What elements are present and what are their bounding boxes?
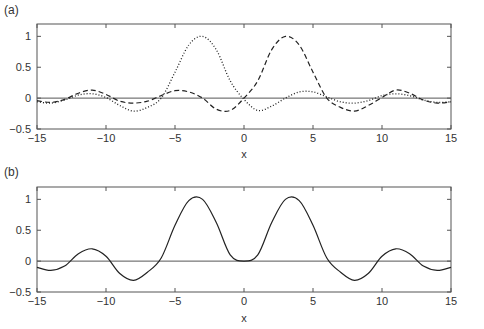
x-tick-label: 0 (241, 295, 247, 307)
x-tick-label: 0 (241, 132, 247, 144)
x-tick-label: −10 (97, 132, 116, 144)
x-tick-label: 10 (376, 132, 388, 144)
y-tick-label: 0.5 (16, 61, 31, 73)
x-tick-label: 5 (310, 295, 316, 307)
x-tick-label: 10 (376, 295, 388, 307)
x-tick-label: 15 (445, 295, 457, 307)
y-tick-label: 0 (25, 255, 31, 267)
y-tick-label: 0.5 (16, 224, 31, 236)
y-tick-label: 1 (25, 193, 31, 205)
figure: (a) −15−10−5051015−0.500.51 x (b) −15−10… (0, 0, 484, 329)
x-tick-label: −5 (169, 295, 182, 307)
panel-a-axes: −15−10−5051015−0.500.51 (9, 24, 457, 144)
y-tick-label: 0 (25, 92, 31, 104)
panel-a-xlabel: x (241, 148, 247, 160)
x-tick-label: −10 (97, 295, 116, 307)
x-tick-label: −5 (169, 132, 182, 144)
panel-b-axes: −15−10−5051015−0.500.51 (9, 187, 457, 307)
panel-b-label: (b) (4, 165, 19, 179)
y-tick-label: −0.5 (9, 286, 31, 298)
series-dotted (37, 36, 451, 111)
panel-a: (a) −15−10−5051015−0.500.51 x (4, 3, 457, 160)
y-tick-label: 1 (25, 30, 31, 42)
series-solid (37, 197, 451, 280)
panel-b-xlabel: x (241, 312, 247, 324)
panel-a-label: (a) (4, 3, 19, 17)
x-tick-label: 15 (445, 132, 457, 144)
panel-b: (b) −15−10−5051015−0.500.51 x (4, 165, 457, 324)
plot-frame (37, 187, 451, 292)
plot-frame (37, 24, 451, 129)
x-tick-label: 5 (310, 132, 316, 144)
y-tick-label: −0.5 (9, 123, 31, 135)
series-dashed (37, 36, 451, 111)
